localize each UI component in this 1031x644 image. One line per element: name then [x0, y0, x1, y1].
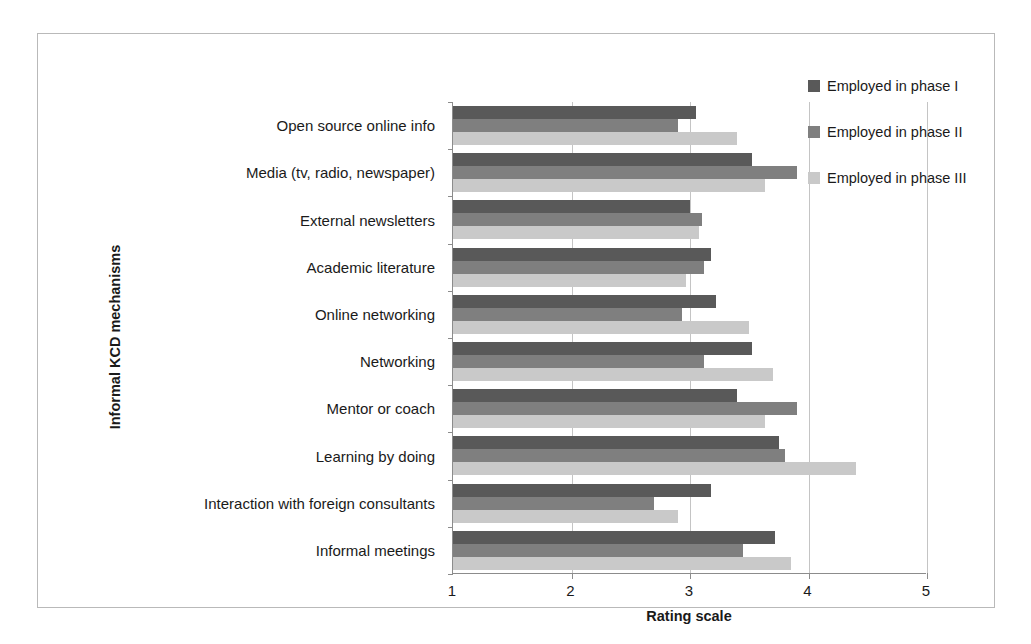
bar: [453, 226, 699, 239]
bar: [453, 295, 716, 308]
bar: [453, 308, 682, 321]
legend-item: Employed in phase III: [808, 170, 1031, 186]
bar: [453, 544, 743, 557]
bar: [453, 368, 773, 381]
category-label: Mentor or coach: [98, 385, 444, 432]
bar-group: [453, 527, 926, 574]
bar: [453, 389, 737, 402]
chart-figure: Informal KCD mechanisms Open source onli…: [0, 0, 1031, 644]
legend-label: Employed in phase III: [827, 170, 966, 186]
bar-group: [453, 385, 926, 432]
bar: [453, 462, 856, 475]
x-tick-mark: [927, 573, 928, 579]
bar: [453, 449, 785, 462]
bar: [453, 531, 775, 544]
chart-legend: Employed in phase IEmployed in phase IIE…: [808, 78, 1031, 186]
legend-item: Employed in phase II: [808, 124, 1031, 140]
legend-label: Employed in phase I: [827, 78, 958, 94]
bar: [453, 119, 678, 132]
category-label: Networking: [98, 338, 444, 385]
bar: [453, 510, 678, 523]
bar-group: [453, 480, 926, 527]
bar: [453, 132, 737, 145]
x-tick-label: 1: [432, 582, 472, 599]
bar: [453, 436, 779, 449]
bar: [453, 153, 752, 166]
bar: [453, 402, 797, 415]
category-label: Learning by doing: [98, 432, 444, 479]
bar: [453, 248, 711, 261]
bar: [453, 497, 654, 510]
legend-swatch-icon: [808, 80, 820, 92]
bar: [453, 179, 765, 192]
category-label: Media (tv, radio, newspaper): [98, 149, 444, 196]
bar: [453, 415, 765, 428]
category-label: Interaction with foreign consultants: [98, 480, 444, 527]
y-tick-mark: [448, 574, 453, 575]
bar-group: [453, 196, 926, 243]
bar-group: [453, 338, 926, 385]
bar-group: [453, 432, 926, 479]
bar: [453, 355, 704, 368]
category-label: Academic literature: [98, 244, 444, 291]
bar: [453, 261, 704, 274]
x-tick-label: 4: [788, 582, 828, 599]
bar: [453, 321, 749, 334]
bar: [453, 106, 696, 119]
x-axis-tick-labels: 12345: [452, 582, 926, 604]
bar: [453, 213, 702, 226]
legend-swatch-icon: [808, 126, 820, 138]
category-axis-labels: Open source online infoMedia (tv, radio,…: [98, 102, 444, 574]
bar: [453, 342, 752, 355]
x-tick-label: 2: [551, 582, 591, 599]
category-label: Informal meetings: [98, 527, 444, 574]
bar-group: [453, 291, 926, 338]
bar: [453, 484, 711, 497]
chart-frame: Informal KCD mechanisms Open source onli…: [37, 33, 995, 608]
legend-label: Employed in phase II: [827, 124, 962, 140]
legend-item: Employed in phase I: [808, 78, 1031, 94]
x-axis-title: Rating scale: [452, 608, 926, 624]
bar: [453, 274, 686, 287]
x-tick-label: 3: [669, 582, 709, 599]
category-label: External newsletters: [98, 196, 444, 243]
category-label: Open source online info: [98, 102, 444, 149]
x-tick-label: 5: [906, 582, 946, 599]
category-label: Online networking: [98, 291, 444, 338]
bar: [453, 200, 690, 213]
bar: [453, 166, 797, 179]
legend-swatch-icon: [808, 172, 820, 184]
bar-group: [453, 244, 926, 291]
bar: [453, 557, 791, 570]
